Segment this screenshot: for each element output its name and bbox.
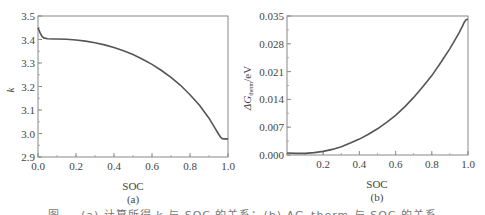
chart-a-svg: 0.00.20.40.60.81.02.93.03.13.23.33.43.5 … (0, 0, 240, 215)
y-tick-label: 3.4 (21, 34, 35, 46)
x-tick-label: 1.0 (221, 160, 235, 172)
chart-b-plot-frame (287, 16, 468, 155)
chart-panel-a: 0.00.20.40.60.81.02.93.03.13.23.33.43.5 … (0, 0, 240, 215)
y-tick-label: 0.000 (259, 149, 284, 161)
chart-a-x-axis-title: SOC (122, 180, 143, 192)
chart-a-y-axis-title: k (4, 86, 16, 92)
y-tick-label: 0.007 (259, 121, 284, 133)
y-tick-label: 3.3 (21, 57, 35, 69)
y-tick-label: 0.035 (259, 10, 284, 22)
chart-b-y-axis-unit: /eV (241, 66, 253, 82)
y-tick-label: 0.014 (259, 93, 284, 105)
chart-b-y-axis-main: ΔG (241, 96, 253, 111)
y-tick-label: 3.0 (21, 128, 35, 140)
chart-b-x-axis-title: SOC (366, 178, 387, 190)
chart-b-ticks: 0.20.40.60.81.00.0000.0070.0140.0210.028… (259, 10, 475, 170)
y-tick-label: 2.9 (21, 151, 35, 163)
chart-b-y-axis-sub: therm (248, 81, 254, 95)
x-tick-label: 0.8 (425, 158, 439, 170)
x-tick-label: 0.4 (107, 160, 121, 172)
figure-caption: 图 — (a) 计算所得 k 与 SOC 的关系；(b) ΔG_therm 与 … (48, 206, 468, 215)
y-tick-label: 3.5 (21, 10, 35, 22)
x-tick-label: 0.6 (145, 160, 159, 172)
chart-b-svg: 0.20.40.60.81.00.0000.0070.0140.0210.028… (240, 0, 485, 215)
plot-border (38, 16, 228, 157)
chart-panel-b: 0.20.40.60.81.00.0000.0070.0140.0210.028… (240, 0, 485, 215)
plot-border (287, 16, 468, 155)
y-tick-label: 3.2 (21, 81, 35, 93)
x-tick-label: 1.0 (461, 158, 475, 170)
chart-a-plot-frame (38, 16, 228, 157)
y-tick-label: 0.021 (259, 66, 284, 78)
chart-b-panel-label: (b) (371, 191, 384, 204)
chart-b-line-delta-g (287, 19, 468, 153)
x-tick-label: 0.2 (316, 158, 330, 170)
y-tick-label: 3.1 (21, 104, 35, 116)
x-tick-label: 0.2 (69, 160, 83, 172)
x-tick-label: 0.4 (353, 158, 367, 170)
chart-a-line-k (38, 28, 228, 139)
chart-a-ticks: 0.00.20.40.60.81.02.93.03.13.23.33.43.5 (21, 10, 235, 172)
chart-a-panel-label: (a) (127, 193, 140, 206)
x-tick-label: 0.6 (389, 158, 403, 170)
x-tick-label: 0.8 (183, 160, 197, 172)
y-tick-label: 0.028 (259, 38, 284, 50)
chart-b-y-axis-title: ΔGtherm/eV (241, 66, 254, 111)
